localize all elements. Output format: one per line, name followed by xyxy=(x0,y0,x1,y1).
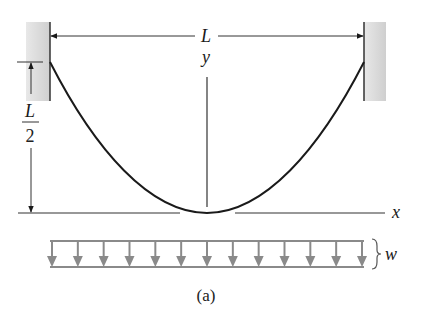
distributed-load xyxy=(47,241,367,267)
load-arrow-icon xyxy=(228,241,238,267)
sag-label-numerator: L xyxy=(24,101,35,121)
span-dimension: L xyxy=(51,26,363,46)
load-arrow-icon xyxy=(125,241,135,267)
load-arrow-icon xyxy=(305,241,315,267)
right-wall-support xyxy=(364,22,386,101)
load-arrow-icon xyxy=(357,241,367,267)
x-axis-label: x xyxy=(391,202,400,222)
load-arrow-icon xyxy=(254,241,264,267)
figure-caption: (a) xyxy=(197,286,216,305)
sag-label-denominator: 2 xyxy=(26,126,35,146)
load-label: w xyxy=(385,244,397,264)
load-arrow-icon xyxy=(99,241,109,267)
load-arrow-icon xyxy=(331,241,341,267)
y-axis: y xyxy=(200,47,210,207)
load-arrow-icon xyxy=(150,241,160,267)
load-arrow-icon xyxy=(47,241,57,267)
load-arrow-icon xyxy=(280,241,290,267)
span-label: L xyxy=(200,26,211,46)
load-arrow-icon xyxy=(176,241,186,267)
load-arrow-icon xyxy=(73,241,83,267)
load-arrow-icon xyxy=(202,241,212,267)
hanging-cable-diagram: L y x L 2 w (a) xyxy=(0,0,424,318)
load-intensity-label: w xyxy=(372,239,397,269)
y-axis-label: y xyxy=(200,47,210,67)
